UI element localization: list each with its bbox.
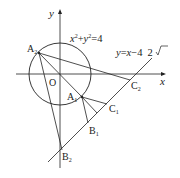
label-B1: B1 [89, 125, 99, 137]
point-A2 [38, 52, 40, 54]
origin-label: O [49, 77, 56, 88]
segment-A1-B1 [82, 97, 88, 123]
label-C2: C2 [131, 80, 141, 92]
label-A2: A2 [27, 43, 37, 55]
label-A1: A1 [67, 91, 77, 103]
sqrt-sign-icon [156, 46, 168, 55]
circle-equation-label: x2+y2=4 [69, 33, 103, 44]
geometry-diagram: y x O x2+y2=4 y=x−42 A2 A1 C2 C1 B1 B2 [0, 0, 180, 178]
y-axis-label: y [48, 7, 54, 19]
line-equation-label: y=x−42 [115, 47, 153, 58]
x-axis-label: x [159, 75, 165, 87]
y-axis-arrow-icon [58, 9, 62, 14]
label-C1: C1 [109, 103, 119, 115]
point-A1 [81, 96, 83, 98]
segment-A2-B2 [39, 53, 62, 150]
label-B2: B2 [62, 151, 72, 163]
